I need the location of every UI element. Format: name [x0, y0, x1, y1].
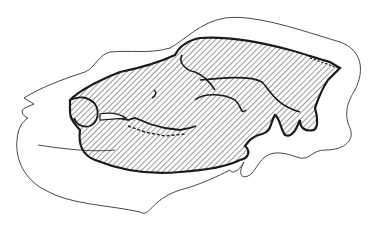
- skull: [70, 38, 340, 173]
- skull-diagram: [0, 0, 378, 234]
- figure: [0, 0, 378, 234]
